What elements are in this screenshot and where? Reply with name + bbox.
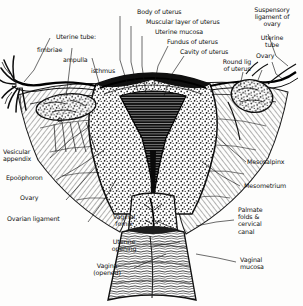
label-ampulla: ampulla (63, 56, 88, 63)
label-uterine-mucosa: Uterine mucosa (155, 28, 203, 35)
label-round-ligament-of-uterus: Round lig of uterus (216, 58, 258, 72)
label-body-of-uterus: Body of uterus (137, 8, 181, 15)
label-uterine-tube-right: Uterine tube (252, 34, 292, 48)
label-epoophoron: Epoöphoron (6, 174, 43, 181)
label-uterine-opening: Uterine opening (99, 238, 149, 252)
label-isthmus: isthmus (91, 67, 115, 74)
label-mesometrium: Mesometrium (244, 182, 286, 189)
label-mesosalpinx: Mesosalpinx (247, 158, 284, 165)
label-ovarian-ligament: Ovarian ligament (7, 215, 60, 222)
label-vaginal-mucosa: Vaginal mucosa (240, 256, 264, 270)
label-uterine-tube-group: Uterine tube: (56, 33, 96, 40)
label-cavity-of-uterus: Cavity of uterus (180, 48, 228, 55)
label-palmate-folds-cervical-canal: Palmate folds & cervical canal (238, 206, 263, 235)
label-vesicular-appendix: Vesicular appendix (3, 148, 31, 162)
label-vagina-opened: Vagina (opened) (82, 262, 132, 276)
label-suspensory-ligament-of-ovary: Suspensory ligament of ovary (244, 6, 300, 28)
label-vaginal-fornix: Vaginal fornix (99, 213, 149, 227)
label-ovary-left: Ovary (20, 194, 38, 201)
label-ovary-right: Ovary (256, 52, 274, 59)
label-fimbriae: fimbriae (37, 46, 62, 53)
anatomical-figure: Uterine tube: fimbriae ampulla isthmus B… (0, 0, 303, 306)
label-muscular-layer-of-uterus: Muscular layer of uterus (146, 18, 220, 25)
label-fundus-of-uterus: Fundus of uterus (167, 38, 218, 45)
